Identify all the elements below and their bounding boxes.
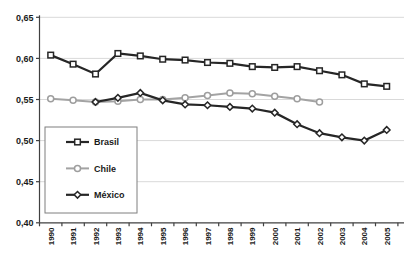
x-axis-tick-label: 1992 [92, 227, 101, 245]
y-axis-tick-label: 0,60 [16, 54, 34, 64]
brasil-marker-1992 [93, 71, 99, 77]
mexico-marker-1994 [137, 90, 144, 97]
brasil-marker-2004 [362, 81, 368, 87]
x-axis-tick-label: 2004 [360, 227, 369, 245]
brasil-marker-1993 [115, 51, 121, 57]
x-axis-tick-label: 1998 [226, 227, 235, 245]
x-axis-tick-label: 2005 [383, 227, 392, 245]
chile-marker-1990 [48, 96, 54, 102]
brasil-marker-1997 [205, 60, 211, 66]
mexico-marker-2002 [316, 130, 323, 137]
y-axis-tick-label: 0,55 [16, 95, 34, 105]
legend-label-chile: Chile [94, 164, 116, 174]
brasil-marker-1998 [227, 61, 233, 67]
chile-marker-2001 [294, 96, 300, 102]
x-axis-tick-label: 2002 [316, 227, 325, 245]
mexico-marker-2003 [339, 134, 346, 141]
gini-line-chart-container: 0,650,600,550,500,450,401990199119921993… [0, 0, 413, 266]
legend-square-icon [75, 139, 81, 145]
chile-marker-1991 [70, 97, 76, 103]
brasil-marker-1999 [250, 64, 256, 70]
legend-circle-icon [75, 165, 81, 171]
brasil-marker-1995 [160, 56, 166, 62]
x-axis-tick-label: 1994 [136, 227, 145, 245]
legend: BrasilChileMéxico [45, 127, 137, 213]
x-axis-tick-label: 1996 [181, 227, 190, 245]
chile-marker-1994 [137, 97, 143, 103]
brasil-marker-2002 [317, 68, 323, 74]
mexico-marker-1999 [249, 105, 256, 112]
legend-label-mexico: México [94, 190, 125, 200]
chile-marker-1997 [205, 92, 211, 98]
y-axis-tick-label: 0,40 [16, 218, 34, 228]
y-axis-tick-label: 0,45 [16, 177, 34, 187]
chile-marker-1999 [249, 91, 255, 97]
mexico-marker-1997 [204, 102, 211, 109]
x-axis-tick-label: 2001 [293, 227, 302, 245]
brasil-marker-2003 [339, 72, 345, 78]
chile-marker-1996 [182, 95, 188, 101]
brasil-marker-2001 [294, 64, 300, 70]
legend-label-brasil: Brasil [94, 137, 119, 147]
chile-marker-1998 [227, 90, 233, 96]
chile-marker-2000 [272, 93, 278, 99]
x-axis-tick-label: 1990 [47, 227, 56, 245]
brasil-marker-1990 [48, 52, 54, 58]
brasil-marker-1994 [138, 53, 144, 59]
x-axis-tick-label: 1997 [204, 227, 213, 245]
y-axis-tick-label: 0,65 [16, 13, 34, 23]
x-axis-tick-label: 2000 [271, 227, 280, 245]
mexico-marker-1996 [182, 101, 189, 108]
mexico-marker-1998 [227, 104, 234, 111]
chile-marker-2002 [317, 99, 323, 105]
line-chart: 0,650,600,550,500,450,401990199119921993… [0, 0, 413, 266]
x-axis-tick-label: 1995 [159, 227, 168, 245]
brasil-marker-2000 [272, 65, 278, 71]
x-axis-tick-label: 1999 [248, 227, 257, 245]
x-axis-tick-label: 1993 [114, 227, 123, 245]
brasil-marker-1996 [182, 57, 188, 63]
y-axis-tick-label: 0,50 [16, 136, 34, 146]
x-axis-tick-label: 1991 [69, 227, 78, 245]
brasil-marker-1991 [70, 61, 76, 67]
x-axis-tick-label: 2003 [338, 227, 347, 245]
brasil-marker-2005 [384, 84, 390, 90]
